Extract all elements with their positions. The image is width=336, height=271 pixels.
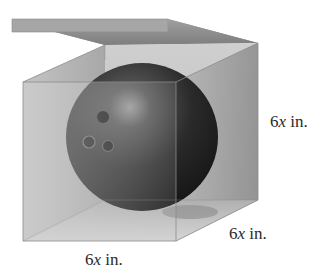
- box-lid: [12, 19, 258, 45]
- width-label: 6x in.: [85, 250, 123, 270]
- depth-label: 6x in.: [229, 224, 267, 244]
- box-front-face: [23, 82, 176, 241]
- height-label: 6x in.: [270, 112, 308, 132]
- box-and-ball-diagram: [0, 0, 336, 271]
